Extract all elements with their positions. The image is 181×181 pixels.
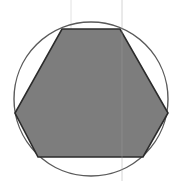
geometric-figure-svg [0, 0, 181, 181]
figure-canvas [0, 0, 181, 181]
